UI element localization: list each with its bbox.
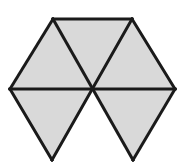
figure-container xyxy=(0,0,191,163)
hexagon-diagram xyxy=(0,0,191,163)
